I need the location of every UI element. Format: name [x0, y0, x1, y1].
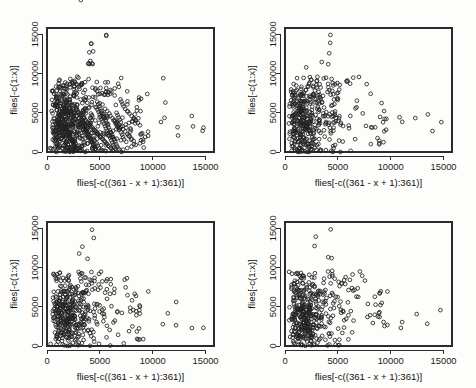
data-point: [114, 103, 118, 107]
data-point: [333, 338, 337, 342]
x-axis-title: flies[-c((361 - x + 1):361)]: [77, 371, 184, 382]
data-point: [352, 319, 356, 323]
y-axis-tick-label: 10000: [267, 60, 278, 86]
data-point: [127, 329, 131, 333]
data-point: [109, 282, 113, 286]
data-point: [323, 135, 327, 139]
data-point: [329, 228, 333, 232]
data-point: [400, 120, 404, 124]
data-point: [112, 291, 116, 295]
data-point: [146, 290, 150, 294]
x-axis-tick-label: 5000: [89, 161, 110, 172]
panel-top-right-svg: 050001000015000050001000015000flies[-c((…: [238, 0, 476, 194]
data-point: [166, 311, 170, 315]
data-point: [121, 116, 125, 120]
data-point: [425, 322, 429, 326]
data-point: [99, 86, 103, 90]
panel-bottom-left-svg: 050001000015000050001000015000flies[-c((…: [0, 194, 238, 388]
data-point: [431, 129, 435, 133]
y-axis-title: flies[-c(1:x)]: [246, 259, 257, 309]
plot-area-top-left: 050001000015000050001000015000flies[-c((…: [8, 0, 218, 188]
data-point: [116, 333, 120, 337]
data-point: [337, 304, 341, 308]
x-axis-tick-label: 10000: [378, 161, 404, 172]
data-point: [310, 276, 314, 280]
data-point: [322, 128, 326, 132]
y-axis-tick-label: 5000: [29, 102, 40, 123]
data-point: [399, 326, 403, 330]
y-axis-tick-label: 5000: [267, 296, 278, 317]
data-point: [317, 137, 321, 141]
data-point: [103, 107, 107, 111]
y-axis: 050001000015000: [29, 21, 42, 154]
data-point: [363, 279, 367, 283]
data-point: [122, 342, 126, 346]
data-point: [347, 338, 351, 342]
data-point: [348, 82, 352, 86]
y-axis-title: flies[-c(1:x)]: [8, 65, 19, 115]
data-point: [119, 76, 123, 80]
data-point: [126, 293, 130, 297]
data-point: [340, 331, 344, 335]
data-point: [332, 306, 336, 310]
data-point: [87, 77, 91, 81]
x-axis-tick-label: 0: [282, 161, 287, 172]
data-point: [202, 326, 206, 330]
data-point: [327, 51, 331, 55]
data-point: [105, 297, 109, 301]
data-point: [378, 115, 382, 119]
data-point: [314, 235, 318, 239]
data-point: [382, 320, 386, 324]
x-axis: 050001000015000: [282, 156, 456, 172]
data-point: [322, 281, 326, 285]
data-point: [413, 116, 417, 120]
data-point: [371, 321, 375, 325]
data-point: [374, 303, 378, 307]
data-point: [322, 277, 326, 281]
data-point: [346, 300, 350, 304]
data-point: [113, 287, 117, 291]
panel-bottom-right: 050001000015000050001000015000flies[-c((…: [238, 194, 476, 388]
data-point: [356, 286, 360, 290]
data-point: [54, 85, 58, 89]
y-axis-tick-label: 5000: [29, 296, 40, 317]
data-point: [95, 80, 99, 84]
y-axis: 050001000015000: [267, 21, 280, 154]
data-point: [360, 274, 364, 278]
data-point: [164, 101, 168, 105]
data-point: [125, 89, 129, 93]
data-point: [190, 114, 194, 118]
data-point: [79, 0, 83, 2]
data-point: [342, 326, 346, 330]
x-axis-title: flies[-c((361 - x + 1):361)]: [315, 177, 422, 188]
x-axis-tick-label: 0: [282, 355, 287, 366]
data-point: [348, 278, 352, 282]
data-point: [130, 298, 134, 302]
data-point: [92, 310, 96, 314]
data-point: [338, 338, 342, 342]
x-axis: 050001000015000: [44, 156, 218, 172]
data-point: [96, 124, 100, 128]
data-point: [357, 75, 361, 79]
data-point: [348, 114, 352, 118]
data-point: [347, 288, 351, 292]
data-points: [287, 33, 443, 154]
data-point: [123, 130, 127, 134]
data-point: [176, 134, 180, 138]
data-point: [161, 76, 165, 80]
data-point: [320, 60, 324, 64]
data-point: [326, 270, 330, 274]
data-point: [398, 115, 402, 119]
y-axis-tick-label: 15000: [267, 215, 278, 241]
data-point: [131, 325, 135, 329]
data-point: [139, 109, 143, 113]
x-axis-tick-label: 0: [44, 161, 49, 172]
data-point: [415, 312, 419, 316]
y-axis-tick-label: 15000: [29, 21, 40, 47]
data-point: [361, 112, 365, 116]
data-point: [353, 137, 357, 141]
data-point: [355, 99, 359, 103]
data-point: [105, 336, 109, 340]
data-point: [313, 244, 317, 248]
y-axis-tick-label: 0: [267, 149, 278, 154]
